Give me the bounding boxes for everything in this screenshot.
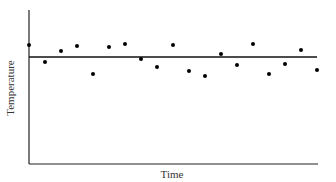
data-point	[27, 43, 31, 47]
data-point	[123, 42, 127, 46]
data-point	[139, 57, 143, 61]
data-point	[155, 65, 159, 69]
data-point	[251, 42, 255, 46]
data-point	[283, 62, 287, 66]
data-point	[187, 69, 191, 73]
data-points	[27, 42, 319, 78]
data-point	[107, 45, 111, 49]
data-point	[43, 60, 47, 64]
data-point	[219, 52, 223, 56]
data-point	[59, 49, 63, 53]
y-axis-label: Temperature	[4, 60, 16, 115]
data-point	[171, 43, 175, 47]
data-point	[91, 72, 95, 76]
data-point	[203, 74, 207, 78]
data-point	[75, 44, 79, 48]
x-axis-label: Time	[161, 168, 184, 180]
scatter-chart	[0, 0, 336, 182]
data-point	[235, 63, 239, 67]
data-point	[299, 48, 303, 52]
data-point	[267, 72, 271, 76]
data-point	[315, 68, 319, 72]
